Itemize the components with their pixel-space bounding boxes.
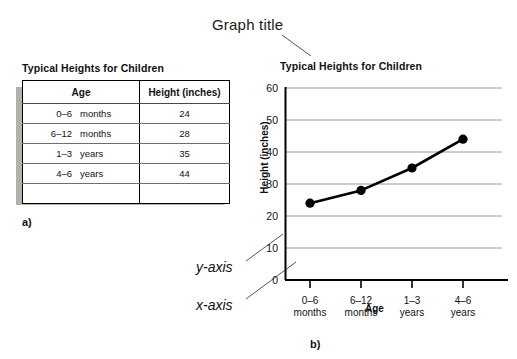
table-body: 0–6months 24 6–12months 28 bbox=[23, 104, 230, 204]
x-tick-marks bbox=[310, 280, 463, 288]
cell-age: 0–6months bbox=[23, 104, 140, 124]
x-tick-label-group: 0–6 months bbox=[282, 295, 338, 319]
table-row-empty bbox=[23, 184, 230, 204]
cell-age-unit: months bbox=[80, 108, 128, 119]
x-tick-label-group: 4–6 years bbox=[435, 295, 491, 319]
y-axis-callout-label: y-axis bbox=[196, 259, 233, 275]
data-point bbox=[356, 186, 365, 195]
graph-title-callout-label: Graph title bbox=[212, 16, 283, 33]
column-header-height: Height (inches) bbox=[140, 81, 230, 104]
table-header: Age Height (inches) bbox=[23, 81, 230, 104]
x-axis-callout-label: x-axis bbox=[196, 297, 233, 313]
table-caption: Typical Heights for Children bbox=[22, 62, 234, 74]
cell-age: 1–3years bbox=[23, 144, 140, 164]
x-tick-label-line1: 0–6 bbox=[282, 295, 338, 307]
data-markers bbox=[305, 135, 467, 208]
table-row: 4–6years 44 bbox=[23, 164, 230, 184]
cell-height-empty bbox=[140, 184, 230, 204]
cell-age-range: 4–6 bbox=[34, 168, 80, 179]
y-tick-label: 40 bbox=[266, 146, 278, 158]
gridlines bbox=[285, 88, 502, 248]
cell-age-unit: months bbox=[80, 128, 128, 139]
y-tick-label: 50 bbox=[266, 114, 278, 126]
table-header-row: Age Height (inches) bbox=[23, 81, 230, 104]
cell-age-range: 1–3 bbox=[34, 148, 80, 159]
data-line bbox=[310, 139, 463, 203]
heights-table: Age Height (inches) 0–6months 24 bbox=[22, 80, 230, 204]
cell-age-empty bbox=[23, 184, 140, 204]
x-tick-label-line2: years bbox=[435, 307, 491, 319]
x-tick-label-line2: years bbox=[384, 307, 440, 319]
column-header-age: Age bbox=[23, 81, 140, 104]
cell-age-range: 6–12 bbox=[34, 128, 80, 139]
cell-age-unit: years bbox=[80, 148, 128, 159]
chart-plot-area: 60 50 40 30 20 10 0 bbox=[240, 78, 512, 303]
y-tick-label: 10 bbox=[266, 242, 278, 254]
cell-height: 35 bbox=[140, 144, 230, 164]
x-tick-label-line1: 4–6 bbox=[435, 295, 491, 307]
chart-figure: Typical Heights for Children Height (inc… bbox=[240, 60, 512, 350]
x-tick-label-line1: 1–3 bbox=[384, 295, 440, 307]
data-point bbox=[458, 135, 467, 144]
y-tick-label: 20 bbox=[266, 210, 278, 222]
data-point bbox=[407, 163, 416, 172]
cell-age-unit: years bbox=[80, 168, 128, 179]
y-tick-label: 30 bbox=[266, 178, 278, 190]
cell-age-range: 0–6 bbox=[34, 108, 80, 119]
part-label-a: a) bbox=[22, 216, 32, 228]
table-row: 6–12months 28 bbox=[23, 124, 230, 144]
y-tick-label: 0 bbox=[272, 274, 278, 286]
cell-height: 24 bbox=[140, 104, 230, 124]
x-tick-label-group: 1–3 years bbox=[384, 295, 440, 319]
table-shadow-wrapper: Age Height (inches) 0–6months 24 bbox=[22, 80, 234, 204]
cell-height: 28 bbox=[140, 124, 230, 144]
data-point bbox=[305, 199, 314, 208]
table-row: 1–3years 35 bbox=[23, 144, 230, 164]
cell-age: 6–12months bbox=[23, 124, 140, 144]
y-tick-label: 60 bbox=[266, 82, 278, 94]
table-row: 0–6months 24 bbox=[23, 104, 230, 124]
cell-age: 4–6years bbox=[23, 164, 140, 184]
table-figure: Typical Heights for Children Age Height … bbox=[22, 62, 234, 204]
chart-x-axis-label: Age bbox=[365, 303, 384, 314]
chart-title: Typical Heights for Children bbox=[280, 60, 422, 72]
cell-height: 44 bbox=[140, 164, 230, 184]
x-tick-label-line2: months bbox=[282, 307, 338, 319]
